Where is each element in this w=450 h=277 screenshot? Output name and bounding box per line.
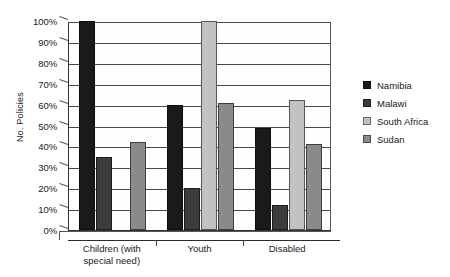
y-axis-riser	[59, 141, 68, 145]
y-axis-tick-label: 90%	[17, 38, 57, 48]
x-axis-category-label: Children (withspecial need)	[68, 243, 156, 266]
legend-item: Namibia	[363, 76, 428, 94]
y-axis-tick-label: 80%	[17, 59, 57, 69]
bar	[272, 205, 288, 230]
bar	[130, 142, 146, 230]
y-axis-tick-labels: 100%90%80%70%60%50%40%30%20%10%0%	[17, 0, 57, 277]
legend-swatch	[363, 81, 371, 89]
y-axis-tick-label: 40%	[17, 143, 57, 153]
y-axis-riser	[59, 37, 68, 41]
bar	[79, 21, 95, 230]
bar	[201, 21, 217, 230]
bar	[255, 128, 271, 230]
y-axis-riser	[59, 100, 68, 104]
y-axis-tick-label: 20%	[17, 184, 57, 194]
y-axis-tick-label: 50%	[17, 122, 57, 132]
legend-swatch	[363, 135, 371, 143]
legend-label: Sudan	[377, 134, 404, 145]
y-axis-riser	[59, 204, 68, 208]
legend-item: Malawi	[363, 94, 428, 112]
y-axis-riser	[59, 79, 68, 83]
y-axis-riser	[59, 16, 68, 20]
y-axis-riser	[59, 162, 68, 166]
legend-item: South Africa	[363, 112, 428, 130]
bar	[218, 103, 234, 230]
legend-label: Namibia	[377, 80, 412, 91]
y-axis-tick-label: 30%	[17, 164, 57, 174]
legend-swatch	[363, 99, 371, 107]
x-axis-category-label-line: Children (with	[68, 243, 156, 255]
bar	[96, 157, 112, 230]
legend-item: Sudan	[363, 130, 428, 148]
bar-group	[157, 22, 245, 230]
x-axis	[59, 231, 340, 243]
y-axis-riser	[59, 121, 68, 125]
y-axis-tick-label: 10%	[17, 205, 57, 215]
legend-swatch	[363, 117, 371, 125]
x-axis-left-riser	[59, 231, 69, 240]
x-axis-category-label: Disabled	[243, 243, 331, 255]
y-axis-tick-label: 60%	[17, 101, 57, 111]
bar	[167, 105, 183, 230]
legend-label: South Africa	[377, 116, 428, 127]
x-axis-front-edge	[68, 240, 340, 241]
y-axis-riser	[59, 58, 68, 62]
x-axis-category-label-line: special need)	[68, 255, 156, 267]
bar-group	[69, 22, 157, 230]
legend: NamibiaMalawiSouth AfricaSudan	[363, 76, 428, 148]
y-axis-tick-label: 100%	[17, 17, 57, 27]
bar-series-container	[69, 22, 331, 230]
y-axis-riser	[59, 225, 68, 229]
x-axis-back-edge	[59, 231, 331, 232]
bar	[306, 144, 322, 230]
y-axis-riser	[59, 183, 68, 187]
bar-chart: No. Policies 100%90%80%70%60%50%40%30%20…	[0, 0, 450, 277]
bar-group	[244, 22, 332, 230]
legend-label: Malawi	[377, 98, 407, 109]
y-axis-tick-label: 70%	[17, 80, 57, 90]
x-axis-category-label-line: Youth	[156, 243, 244, 255]
y-axis-tick-label: 0%	[17, 226, 57, 236]
x-axis-category-label: Youth	[156, 243, 244, 255]
plot-area	[68, 22, 331, 231]
x-axis-category-label-line: Disabled	[243, 243, 331, 255]
bar	[289, 100, 305, 230]
bar	[184, 188, 200, 230]
